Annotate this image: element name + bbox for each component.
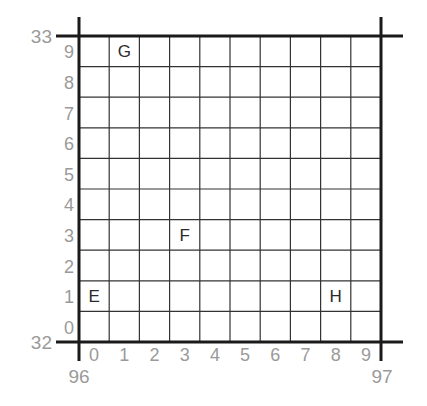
corner-label-bottom-left-northing: 32	[31, 332, 52, 353]
y-tick-label: 3	[64, 226, 74, 246]
point-label-h: H	[330, 287, 342, 306]
x-tick-label: 7	[300, 345, 310, 365]
x-tick-label: 3	[180, 345, 190, 365]
x-tick-label: 5	[240, 345, 250, 365]
y-tick-label: 8	[64, 73, 74, 93]
point-label-f: F	[180, 226, 190, 245]
corner-label-bottom-right-easting: 97	[371, 366, 392, 387]
x-tick-label: 6	[270, 345, 280, 365]
y-tick-label: 1	[64, 287, 74, 307]
point-label-e: E	[88, 287, 99, 306]
corner-label-top-left-northing: 33	[31, 26, 52, 47]
x-tick-label: 0	[89, 345, 99, 365]
point-label-g: G	[118, 42, 131, 61]
y-tick-label: 7	[64, 104, 74, 124]
y-tick-label: 6	[64, 134, 74, 154]
x-tick-label: 4	[210, 345, 220, 365]
x-axis-tick-labels: 0123456789	[89, 345, 371, 365]
point-labels: GFEH	[88, 42, 341, 306]
x-tick-label: 2	[149, 345, 159, 365]
grid-diagram: 0123456789 0123456789 GFEH 33 32 96 97	[0, 0, 427, 406]
x-tick-label: 1	[119, 345, 129, 365]
grid-canvas: 0123456789 0123456789 GFEH 33 32 96 97	[0, 0, 427, 406]
corner-label-bottom-left-easting: 96	[68, 366, 89, 387]
y-tick-label: 4	[64, 195, 74, 215]
x-tick-label: 8	[331, 345, 341, 365]
y-tick-label: 5	[64, 165, 74, 185]
y-tick-label: 0	[64, 318, 74, 338]
y-axis-tick-labels: 0123456789	[64, 42, 74, 337]
y-tick-label: 9	[64, 42, 74, 62]
x-tick-label: 9	[361, 345, 371, 365]
y-tick-label: 2	[64, 257, 74, 277]
